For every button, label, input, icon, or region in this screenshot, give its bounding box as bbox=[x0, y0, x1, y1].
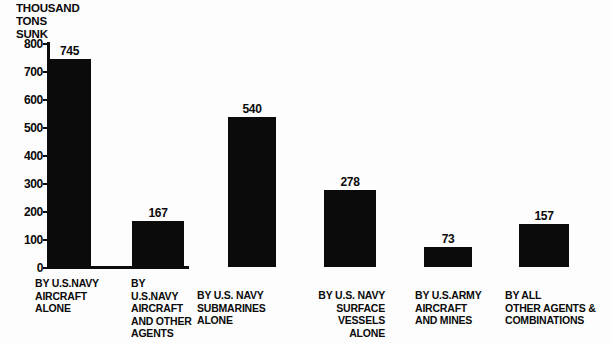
y-axis-tick-label: 300 bbox=[24, 177, 43, 191]
category-label: BY U.S. NAVYSURFACEVESSELSALONE bbox=[300, 289, 385, 339]
plot-area: 8007006005004003002001000 74516754027873… bbox=[0, 0, 611, 343]
category-label-line: AIRCRAFT bbox=[415, 302, 515, 315]
category-label-line: OTHER AGENTS & bbox=[505, 302, 611, 315]
bar bbox=[324, 190, 376, 268]
category-label-line: BY U.S.ARMY bbox=[415, 289, 515, 302]
category-label-line: AGENTS bbox=[131, 327, 226, 340]
y-axis-tick-label: 400 bbox=[24, 149, 43, 163]
bar-value-label: 73 bbox=[442, 232, 455, 246]
bar-value-label: 540 bbox=[242, 102, 261, 116]
bar bbox=[228, 117, 276, 268]
category-label-line: VESSELS bbox=[300, 314, 385, 327]
bar bbox=[424, 247, 472, 267]
y-axis-tick-label: 500 bbox=[24, 121, 43, 135]
category-label-line: ALONE bbox=[35, 302, 140, 315]
y-axis-tick-label: 200 bbox=[24, 205, 43, 219]
bar-value-label: 157 bbox=[534, 209, 553, 223]
category-label: BY ALLOTHER AGENTS &COMBINATIONS bbox=[505, 289, 611, 327]
y-axis-tick-label: 600 bbox=[24, 93, 43, 107]
category-label-line: BY ALL bbox=[505, 289, 611, 302]
category-label-line: AIRCRAFT bbox=[35, 290, 140, 303]
category-label-line: COMBINATIONS bbox=[505, 314, 611, 327]
bar-chart-figure: THOUSAND TONS SUNK 800700600500400300200… bbox=[0, 0, 611, 343]
category-label-line: BY U.S.NAVY bbox=[35, 277, 140, 290]
category-label-line: ALONE bbox=[197, 314, 312, 327]
bar-value-label: 167 bbox=[148, 206, 167, 220]
category-label-line: BY U.S. NAVY bbox=[300, 289, 385, 302]
y-axis-tick-label: 800 bbox=[24, 37, 43, 51]
category-label-line: BY bbox=[131, 277, 226, 290]
bar bbox=[519, 224, 569, 268]
category-label: BY U.S.ARMYAIRCRAFTAND MINES bbox=[415, 289, 515, 327]
bar-value-label: 278 bbox=[340, 175, 359, 189]
category-label: BY U.S. NAVYSUBMARINESALONE bbox=[197, 289, 312, 327]
bar bbox=[132, 221, 184, 268]
bar-value-label: 745 bbox=[60, 44, 79, 58]
y-axis-tick-mark bbox=[43, 43, 50, 45]
category-label-line: ALONE bbox=[300, 327, 385, 340]
category-label-line: SUBMARINES bbox=[197, 302, 312, 315]
category-label-line: AND MINES bbox=[415, 314, 515, 327]
y-axis-tick-label: 700 bbox=[24, 65, 43, 79]
y-axis-tick-label: 100 bbox=[24, 233, 43, 247]
category-label-line: SURFACE bbox=[300, 302, 385, 315]
bar bbox=[48, 59, 91, 267]
category-label-line: BY U.S. NAVY bbox=[197, 289, 312, 302]
category-label: BY U.S.NAVYAIRCRAFTALONE bbox=[35, 277, 140, 315]
